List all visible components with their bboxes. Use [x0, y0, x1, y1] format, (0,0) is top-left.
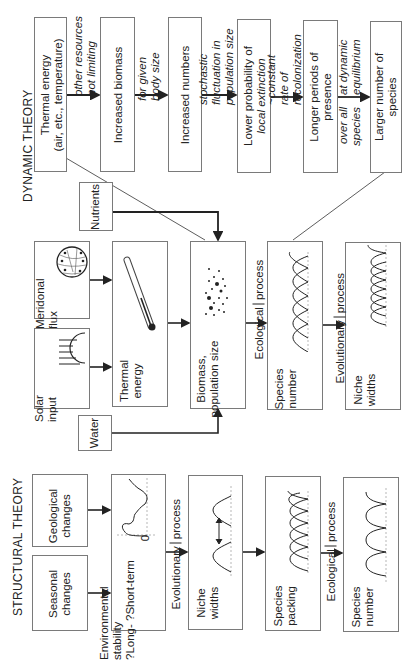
box-text: number	[363, 582, 376, 632]
box-text: Longer periods of	[308, 21, 321, 173]
thermometer-icon	[123, 254, 163, 334]
box-text: changes	[60, 559, 73, 629]
box-text: Species	[350, 582, 363, 632]
box-thermal-energy-air: Thermal energy (air, etc., temperature)	[34, 17, 67, 172]
box-meridional-flux: Meridonal flux	[34, 241, 90, 319]
box-text: widths	[365, 365, 378, 415]
box-longer-periods-presence: Longer periods of presence	[303, 20, 338, 173]
box-text: changes	[60, 481, 73, 551]
box-text: Niche	[195, 578, 208, 628]
overlapping-curves-icon	[282, 252, 312, 352]
narrow-niche-curves-icon	[362, 245, 392, 329]
box-text: presence	[321, 21, 334, 173]
arrow-label-resources: other resources not limiting	[72, 16, 98, 96]
box-niche-widths-dynamic: Niche widths	[345, 242, 401, 410]
box-text: Water	[88, 411, 102, 455]
box-text: packing	[285, 581, 298, 631]
box-thermal-energy: Thermal energy	[112, 241, 168, 407]
box-environmental-stability: Environmental stability ?Long- ?Short-te…	[111, 474, 166, 631]
arrow-label-over-all-species: over all species	[337, 107, 363, 151]
box-text: Environmental	[98, 550, 111, 660]
box-text: Nutrients	[89, 183, 103, 231]
box-text: widths	[208, 578, 221, 628]
arrow-label-recolonization: ~constant rate of recolonization	[265, 15, 305, 105]
box-geological-changes: Geological changes	[32, 474, 88, 547]
box-text: Lower probability of	[242, 20, 255, 173]
box-text: (air, etc., temperature)	[52, 19, 65, 172]
box-increased-biomass: Increased biomass	[100, 17, 135, 172]
box-text: species	[386, 21, 399, 173]
box-text: Larger number of	[373, 21, 386, 173]
evolutionary-process-label-structural: Evolutionaryprocess	[170, 510, 183, 610]
stability-zero-label: 0	[139, 533, 151, 543]
arrow-label-body-size: for given body size	[136, 41, 162, 101]
ecological-process-label-structural: Ecologicalprocess	[325, 518, 338, 602]
box-biomass-population: Biomass, population size	[190, 241, 246, 409]
box-niche-widths-structural: Niche widths	[188, 475, 243, 630]
box-text: input	[46, 362, 59, 422]
box-text: Meridonal	[34, 269, 47, 329]
box-text: energy	[131, 351, 144, 411]
box-text: population size	[208, 324, 221, 434]
box-text: Increased numbers	[179, 19, 192, 172]
box-water: Water	[78, 415, 112, 451]
box-text: Increased biomass	[112, 19, 125, 172]
box-text: stability	[111, 550, 124, 660]
box-text: Niche	[352, 365, 365, 415]
box-text: Solar	[33, 362, 46, 422]
box-text: Biomass,	[195, 324, 208, 434]
box-text: number	[286, 364, 299, 414]
ecological-process-label-dynamic: Ecologicalprocess	[253, 276, 266, 360]
box-nutrients: Nutrients	[79, 182, 113, 231]
box-text: Geological	[47, 481, 60, 551]
box-text: Species	[272, 581, 285, 631]
packed-curves-icon	[280, 491, 312, 573]
box-text: Seasonal	[47, 559, 60, 629]
box-larger-number-species: Larger number of species	[370, 21, 402, 173]
evolutionary-process-label-dynamic: Evolutionaryprocess	[334, 284, 347, 384]
box-species-packing: Species packing	[265, 476, 321, 631]
arrow-label-stochastic: stochastic fluctuation in population siz…	[197, 15, 237, 105]
box-text: ?Long- ?Short-term	[124, 550, 137, 660]
population-dots-icon	[203, 267, 233, 319]
box-solar-input: Solar input	[34, 328, 90, 409]
globe-flux-icon	[55, 245, 89, 279]
box-text: Species	[273, 364, 286, 414]
box-species-number-structural: Species number	[343, 477, 399, 632]
arrow-label-dynamic-equilibrium: at dynamic equilibrium	[337, 31, 363, 95]
niche-separation-icon	[203, 486, 235, 576]
solar-input-icon	[55, 331, 89, 371]
separated-curves-icon	[358, 488, 390, 582]
box-text: Thermal energy	[39, 19, 52, 172]
box-text: Thermal	[118, 351, 131, 411]
box-seasonal-changes: Seasonal changes	[32, 555, 88, 631]
box-species-number-dynamic: Species number	[267, 241, 323, 410]
